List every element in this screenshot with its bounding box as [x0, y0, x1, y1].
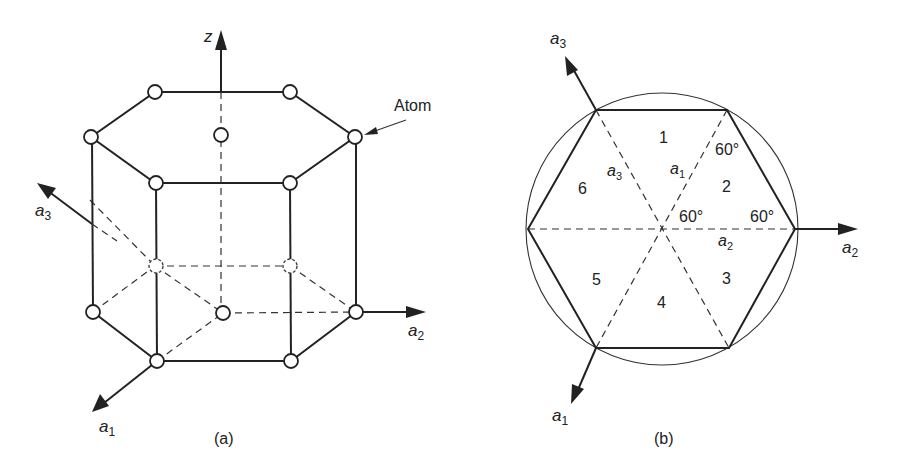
vertical-edges — [92, 137, 356, 361]
b-a1-axis — [571, 348, 596, 404]
atom — [348, 130, 362, 144]
b-a2-axis-label: a2 — [842, 238, 858, 260]
angle-label-center: 60° — [679, 208, 703, 225]
angle-label-right: 60° — [750, 208, 774, 225]
atom — [283, 85, 297, 99]
a2-axis — [356, 306, 426, 318]
atom — [284, 354, 298, 368]
atom-hidden — [283, 259, 297, 273]
atom-annotation-label: Atom — [394, 97, 431, 114]
sector-4: 4 — [657, 294, 666, 311]
inner-a1-label: a1 — [670, 160, 685, 180]
atom — [150, 354, 164, 368]
angle-label-upper: 60° — [715, 141, 739, 158]
z-axis-label: z — [203, 27, 213, 46]
atom-annotation-arrow — [364, 120, 406, 135]
a1-axis-label: a1 — [99, 417, 115, 439]
atom — [214, 128, 228, 142]
b-a2-axis — [795, 223, 858, 235]
atom — [84, 130, 98, 144]
sector-3: 3 — [722, 270, 731, 287]
sector-5: 5 — [592, 271, 601, 288]
inner-a2-label: a2 — [718, 232, 733, 252]
hexagonal-lattice-figure: z a2 a1 a3 — [0, 0, 897, 476]
sector-2: 2 — [722, 178, 731, 195]
atoms — [84, 85, 363, 368]
panel-a-hexagonal-prism: z a2 a1 a3 — [35, 27, 431, 447]
atom — [283, 176, 297, 190]
a3-axis-label: a3 — [35, 201, 51, 223]
panel-b-caption: (b) — [654, 430, 674, 447]
panel-a-caption: (a) — [214, 430, 234, 447]
b-a3-axis — [565, 56, 596, 110]
atom — [149, 176, 163, 190]
panel-b-basal-plane: a2 a3 a1 a3 a1 a2 1 2 3 4 5 6 60° 60° 60… — [526, 29, 858, 447]
sector-1: 1 — [659, 129, 668, 146]
z-axis — [215, 30, 227, 92]
atom — [216, 306, 230, 320]
atom — [86, 305, 100, 319]
atom — [349, 305, 363, 319]
a2-axis-label: a2 — [408, 321, 424, 343]
atom-hidden — [149, 259, 163, 273]
a1-axis — [92, 361, 157, 412]
inner-a3-label: a3 — [607, 162, 622, 182]
atom — [148, 85, 162, 99]
sector-6: 6 — [578, 180, 587, 197]
b-a1-axis-label: a1 — [552, 406, 568, 428]
b-a3-axis-label: a3 — [550, 29, 566, 51]
